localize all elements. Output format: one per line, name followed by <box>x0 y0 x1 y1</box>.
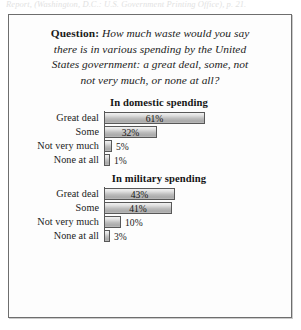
bar-label: Some <box>9 202 104 213</box>
bar-track: 1% <box>104 153 291 166</box>
chart-domestic-rows: Great deal 61% Some 32% Not very much <box>9 111 291 166</box>
question-text-1: How much waste would you say <box>102 27 249 39</box>
chart-military-title: In military spending <box>9 173 291 184</box>
bar-fill: 10% <box>104 216 121 228</box>
bar-fill: 61% <box>104 112 205 124</box>
bar-track: 10% <box>104 215 291 228</box>
bar-label: Great deal <box>9 112 104 123</box>
bar-fill: 41% <box>104 202 172 214</box>
bar-label: Great deal <box>9 188 104 199</box>
bar-fill: 3% <box>104 230 110 242</box>
bar-value-label: 32% <box>105 127 156 139</box>
bar-track: 61% <box>104 111 291 124</box>
bar-label: Not very much <box>9 216 104 227</box>
bar-row: Great deal 61% <box>9 111 291 124</box>
chart-domestic-title: In domestic spending <box>9 97 291 108</box>
chart-military-spending: In military spending Great deal 43% Some… <box>9 173 291 242</box>
bar-value-label: 5% <box>116 141 129 153</box>
bar-value-label: 1% <box>114 155 127 167</box>
question-line-4: not very much, or none at all? <box>23 73 277 89</box>
question-line-3: States government: a great deal, some, n… <box>23 57 277 73</box>
bar-track: 41% <box>104 201 291 214</box>
page-top-text-fragment: Report, (Washington, D.C.: U.S. Governme… <box>6 0 296 10</box>
bar-fill: 32% <box>104 126 157 138</box>
bar-value-label: 41% <box>105 203 171 215</box>
bar-track: 43% <box>104 187 291 200</box>
bar-value-label: 43% <box>105 189 174 201</box>
bar-track: 3% <box>104 229 291 242</box>
bar-fill: 1% <box>104 154 110 166</box>
bar-row: Not very much 5% <box>9 139 291 152</box>
bar-fill: 5% <box>104 140 112 152</box>
bar-value-label: 10% <box>125 217 143 229</box>
bar-track: 5% <box>104 139 291 152</box>
bar-track: 32% <box>104 125 291 138</box>
question-lead-label: Question: <box>51 27 99 39</box>
bar-label: Some <box>9 126 104 137</box>
question-line-1: Question: How much waste would you say <box>23 26 277 42</box>
bar-label: Not very much <box>9 140 104 151</box>
bar-row: Some 32% <box>9 125 291 138</box>
question-line-2: there is in various spending by the Unit… <box>23 42 277 58</box>
bar-row: Not very much 10% <box>9 215 291 228</box>
bar-row: Great deal 43% <box>9 187 291 200</box>
bar-label: None at all <box>9 230 104 241</box>
bar-fill: 43% <box>104 188 175 200</box>
question-block: Question: How much waste would you say t… <box>9 15 291 90</box>
chart-domestic-spending: In domestic spending Great deal 61% Some… <box>9 97 291 166</box>
bar-row: None at all 3% <box>9 229 291 242</box>
chart-military-rows: Great deal 43% Some 41% Not very much <box>9 187 291 242</box>
bar-label: None at all <box>9 154 104 165</box>
bar-value-label: 3% <box>114 231 127 243</box>
exhibit-frame: Question: How much waste would you say t… <box>8 14 292 318</box>
bar-row: None at all 1% <box>9 153 291 166</box>
bar-value-label: 61% <box>105 113 204 125</box>
bar-row: Some 41% <box>9 201 291 214</box>
